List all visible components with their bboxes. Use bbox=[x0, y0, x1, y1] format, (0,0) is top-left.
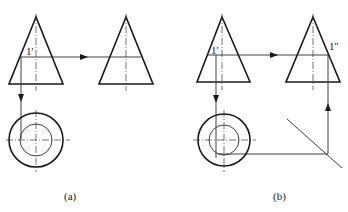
figure-a: 1' (a) bbox=[6, 14, 153, 203]
miter-line-45deg bbox=[287, 119, 342, 168]
side-view-cone-a bbox=[99, 14, 153, 91]
caption-b: (b) bbox=[273, 190, 286, 203]
cone-outline bbox=[197, 17, 250, 82]
projection-diagram: 1' (a) 1' bbox=[0, 0, 348, 212]
top-view-b bbox=[193, 110, 256, 172]
point-label-side-b: 1'' bbox=[329, 40, 338, 52]
top-view-a bbox=[6, 110, 70, 172]
side-view-cone-b bbox=[286, 14, 340, 90]
front-view-cone-b bbox=[197, 14, 250, 90]
caption-a: (a) bbox=[64, 190, 77, 203]
point-label-front-a: 1' bbox=[26, 45, 34, 57]
point-label-front-b: 1' bbox=[211, 44, 219, 56]
figure-b: 1' 1'' (b) bbox=[193, 14, 342, 203]
front-view-cone-a bbox=[9, 14, 63, 91]
